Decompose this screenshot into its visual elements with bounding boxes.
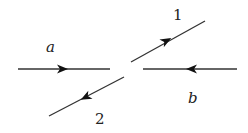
scattering-diagram: a b 1 2 xyxy=(0,0,248,133)
label-a: a xyxy=(46,38,55,56)
label-2: 2 xyxy=(95,110,105,128)
line-1 xyxy=(131,21,205,62)
line-2 xyxy=(49,77,124,116)
label-b: b xyxy=(188,89,198,107)
line-a xyxy=(18,65,110,74)
line-b xyxy=(143,65,237,74)
label-1: 1 xyxy=(173,6,183,24)
arrow-down-left-icon xyxy=(79,91,93,104)
